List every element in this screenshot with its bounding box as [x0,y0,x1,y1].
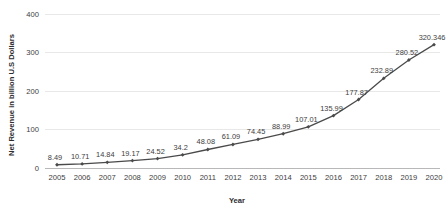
data-point-markers [55,43,436,167]
data-point-marker [156,157,160,161]
revenue-series-line [57,45,434,165]
x-axis-tick-label: 2005 [49,173,66,182]
data-point-marker [105,160,109,164]
series-path [57,45,434,165]
x-axis-tick-label: 2019 [400,173,417,182]
data-point-marker [206,148,210,152]
x-axis-tick-label: 2020 [426,173,443,182]
data-point-label: 74.45 [247,127,266,136]
data-point-label: 61.09 [222,132,241,141]
data-point-label: 280.52 [396,48,419,57]
y-axis-tick-label: 200 [26,87,39,96]
x-axis-tick-label: 2007 [99,173,116,182]
x-axis-tick-label: 2015 [300,173,317,182]
data-point-label: 10.71 [71,152,90,161]
y-axis-tick-label: 400 [26,10,39,19]
data-point-label: 232.89 [370,66,393,75]
data-point-label: 34.2 [173,143,187,152]
y-axis-ticks: 0100200300400 [26,10,39,173]
y-axis-tick-label: 0 [35,164,39,173]
data-point-label: 48.08 [197,137,216,146]
x-axis-tick-label: 2006 [74,173,91,182]
data-point-marker [80,162,84,166]
data-point-label: 88.99 [272,122,291,131]
chart-canvas: 0100200300400 20052006200720082009201020… [0,0,447,213]
revenue-line-chart: 0100200300400 20052006200720082009201020… [0,0,447,213]
x-axis-tick-label: 2017 [350,173,367,182]
data-point-marker [256,137,260,141]
x-axis-tick-label: 2010 [174,173,191,182]
x-axis-tick-label: 2014 [275,173,292,182]
data-point-label: 8.49 [48,153,62,162]
x-axis-tick-label: 2011 [200,173,216,182]
x-axis-tick-label: 2009 [149,173,166,182]
data-point-label: 19.17 [121,149,140,158]
x-axis-tick-label: 2018 [375,173,392,182]
x-axis-tick-label: 2013 [250,173,267,182]
data-point-marker [131,159,135,163]
data-point-label: 107.01 [295,115,318,124]
data-point-label: 135.99 [320,104,343,113]
x-axis-title: Year [229,196,245,205]
x-axis-tick-label: 2016 [325,173,342,182]
data-point-marker [181,153,185,157]
data-point-label: 320.346 [419,33,446,42]
data-point-marker [55,163,59,167]
y-axis-tick-label: 100 [26,125,39,134]
y-axis-title: Net Revenue in billion U.S Dollars [7,34,16,156]
data-point-label: 14.84 [96,150,115,159]
data-point-marker [281,132,285,136]
y-axis-tick-label: 300 [26,48,39,57]
x-axis-ticks: 2005200620072008200920102011201220132014… [49,173,443,182]
data-point-label: 177.87 [345,88,368,97]
data-point-marker [231,143,235,147]
x-axis-tick-label: 2012 [224,173,241,182]
x-axis-tick-label: 2008 [124,173,141,182]
data-point-marker [306,125,310,129]
data-point-label: 24.52 [146,147,165,156]
